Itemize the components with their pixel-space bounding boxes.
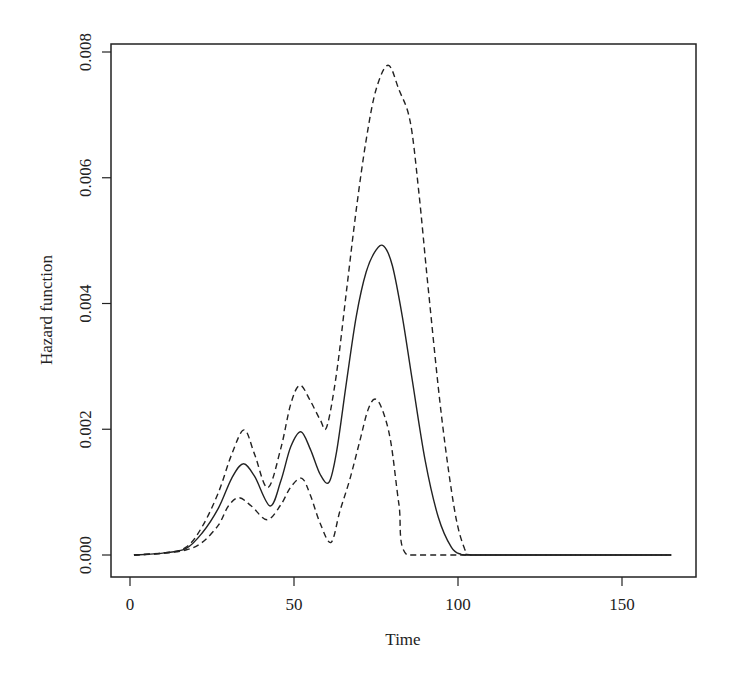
- x-tick-label: 150: [609, 595, 635, 614]
- hazard-chart: 050100150 0.0000.0020.0040.0060.008 Time…: [0, 0, 733, 684]
- x-tick-label: 0: [126, 595, 135, 614]
- y-tick-label: 0.004: [76, 284, 95, 323]
- hazard-estimate-line: [134, 245, 671, 555]
- plot-frame: [111, 44, 696, 577]
- y-axis-title: Hazard function: [37, 255, 56, 365]
- x-axis-title: Time: [385, 630, 420, 649]
- x-tick-label: 100: [445, 595, 471, 614]
- y-tick-label: 0.006: [76, 159, 95, 197]
- confidence-bound-line: [134, 65, 671, 555]
- y-axis: 0.0000.0020.0040.0060.008: [76, 33, 111, 574]
- confidence-bound-line: [134, 399, 671, 555]
- y-tick-label: 0.008: [76, 33, 95, 71]
- x-axis: 050100150: [126, 577, 635, 614]
- y-tick-label: 0.000: [76, 536, 95, 574]
- series-group: [134, 65, 671, 555]
- y-tick-label: 0.002: [76, 410, 95, 448]
- x-tick-label: 50: [286, 595, 303, 614]
